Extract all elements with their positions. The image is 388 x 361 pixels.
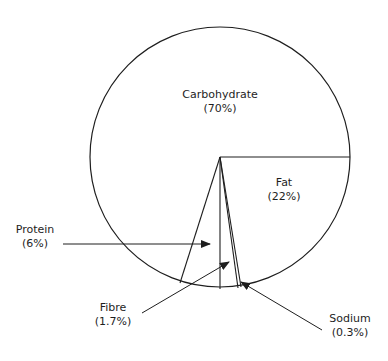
pie-chart xyxy=(0,0,388,361)
label-fat-pct: (22%) xyxy=(264,190,304,204)
sodium-arrow xyxy=(241,282,322,330)
label-protein-pct: (6%) xyxy=(10,237,60,251)
label-sodium-pct: (0.3%) xyxy=(324,326,376,340)
label-fat-name: Fat xyxy=(264,176,304,190)
label-fibre-pct: (1.7%) xyxy=(88,315,138,329)
label-carbohydrate: Carbohydrate (70%) xyxy=(172,88,268,116)
label-sodium-name: Sodium xyxy=(324,312,376,326)
label-fat: Fat (22%) xyxy=(264,176,304,204)
label-protein-name: Protein xyxy=(10,223,60,237)
label-carbohydrate-pct: (70%) xyxy=(172,102,268,116)
label-fibre: Fibre (1.7%) xyxy=(88,301,138,329)
label-carbohydrate-name: Carbohydrate xyxy=(172,88,268,102)
label-fibre-name: Fibre xyxy=(88,301,138,315)
label-protein: Protein (6%) xyxy=(10,223,60,251)
label-sodium: Sodium (0.3%) xyxy=(324,312,376,340)
